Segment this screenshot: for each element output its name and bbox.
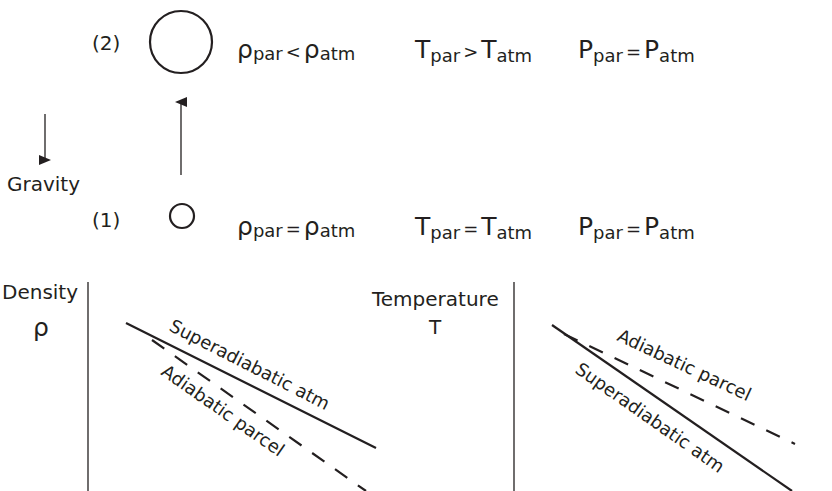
state-2-pressure-relation: Ppar=Patm	[578, 35, 695, 66]
temperature-plot: Temperature T Adiabatic parcel Superadia…	[371, 282, 795, 491]
buoyancy-diagram: (2) ρpar<ρatm Tpar>Tatm Ppar=Patm Gravit…	[0, 0, 832, 491]
gravity-label: Gravity	[7, 172, 80, 196]
temperature-axis-label: Temperature	[371, 287, 499, 311]
state-2-label: (2)	[92, 31, 120, 55]
density-axis-symbol: ρ	[33, 313, 49, 342]
large-parcel-circle-icon	[150, 11, 212, 73]
small-parcel-circle-icon	[170, 204, 194, 228]
temperature-adiabatic-label: Adiabatic parcel	[614, 325, 754, 405]
state-1-density-relation: ρpar=ρatm	[237, 212, 355, 241]
state-1-label: (1)	[92, 208, 120, 232]
density-plot: Density ρ Superadiabatic atm Adiabatic p…	[2, 280, 376, 491]
state-2-density-relation: ρpar<ρatm	[237, 35, 355, 64]
gravity-indicator: Gravity	[7, 114, 80, 196]
state-1-temperature-relation: Tpar=Tatm	[414, 212, 532, 243]
state-1-row: (1) ρpar=ρatm Tpar=Tatm Ppar=Patm	[92, 204, 695, 243]
state-1-pressure-relation: Ppar=Patm	[578, 212, 695, 243]
temperature-axis-symbol: T	[428, 315, 442, 339]
density-axis-label: Density	[2, 280, 78, 304]
state-2-temperature-relation: Tpar>Tatm	[414, 35, 532, 66]
state-2-row: (2) ρpar<ρatm Tpar>Tatm Ppar=Patm	[92, 11, 695, 73]
